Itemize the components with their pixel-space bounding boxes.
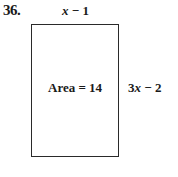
problem-number: 36. <box>3 2 20 19</box>
area-label: Area = 14 <box>48 80 102 96</box>
top-side-constant: − 1 <box>69 3 89 18</box>
right-side-constant: − 2 <box>141 80 161 95</box>
top-side-label: x − 1 <box>62 3 89 19</box>
right-side-label: 3x − 2 <box>128 80 161 96</box>
